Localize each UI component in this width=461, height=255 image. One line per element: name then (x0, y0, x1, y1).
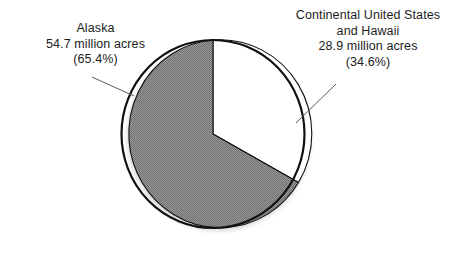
callout-label-alaska-value: 54.7 million acres (8, 37, 183, 53)
leader-line-alaska (92, 77, 134, 96)
callout-label-continental-value: 28.9 million acres (276, 39, 460, 55)
callout-label-alaska: Alaska 54.7 million acres (65.4%) (8, 21, 183, 68)
pie-chart-figure: Alaska 54.7 million acres (65.4%) Contin… (0, 0, 461, 255)
callout-label-alaska-percent: (65.4%) (8, 52, 183, 68)
callout-label-alaska-name: Alaska (8, 21, 183, 37)
callout-label-continental-percent: (34.6%) (276, 55, 460, 71)
callout-label-continental-name-part1: Continental United States (276, 8, 460, 24)
callout-label-continental: Continental United States and Hawaii 28.… (276, 8, 460, 70)
callout-label-continental-name-part2: and Hawaii (276, 24, 460, 40)
